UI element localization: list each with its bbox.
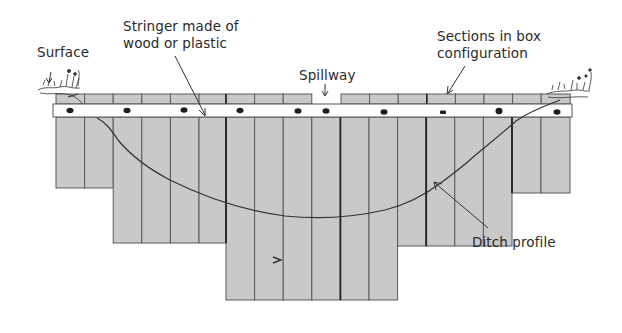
diagram-drawing [0, 0, 622, 333]
ditch-profile-label: Ditch profile [472, 234, 556, 250]
stringer-label-line2: wood or plastic [123, 35, 227, 51]
ditch-plug-diagram: Surface Stringer made of wood or plastic… [0, 0, 622, 333]
surface-vegetation-right [547, 69, 591, 98]
spillway-label: Spillway [299, 67, 356, 83]
sections-label-line2: configuration [437, 45, 528, 61]
sections-arrow [448, 66, 465, 93]
surface-label: Surface [37, 44, 89, 60]
stringer-label-line1: Stringer made of [123, 18, 239, 34]
lower-board-sections [56, 117, 570, 300]
stringer-bar [53, 104, 572, 117]
top-board-sections [56, 94, 570, 104]
sections-label-line1: Sections in box [437, 28, 541, 44]
